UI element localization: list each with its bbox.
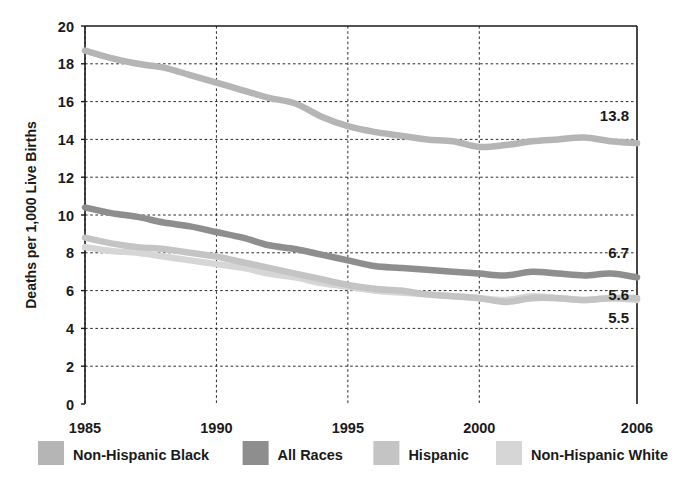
legend-label: All Races bbox=[278, 447, 343, 463]
y-tick-label-0: 0 bbox=[66, 397, 74, 413]
x-tick-label-1995: 1995 bbox=[332, 420, 364, 436]
legend-swatch bbox=[243, 441, 269, 465]
y-tick-label-14: 14 bbox=[58, 132, 74, 148]
y-tick-label-8: 8 bbox=[66, 245, 74, 261]
x-tick-label-1990: 1990 bbox=[200, 420, 232, 436]
x-tick-label-2006: 2006 bbox=[621, 420, 653, 436]
x-tick-label-1985: 1985 bbox=[69, 420, 101, 436]
end-value-label-hispanic: 5.6 bbox=[608, 286, 629, 303]
y-tick-label-18: 18 bbox=[58, 56, 74, 72]
y-axis-title: Deaths per 1,000 Live Births bbox=[23, 121, 39, 309]
y-axis-title-text: Deaths per 1,000 Live Births bbox=[23, 121, 39, 309]
legend-swatch bbox=[38, 441, 64, 465]
x-tick-label-2000: 2000 bbox=[463, 420, 495, 436]
legend-label: Hispanic bbox=[408, 447, 468, 463]
end-value-label-all-races: 6.7 bbox=[608, 244, 629, 261]
end-value-label-non-hispanic-black: 13.8 bbox=[600, 107, 629, 124]
end-value-label-non-hispanic-white: 5.5 bbox=[608, 309, 629, 326]
y-tick-label-10: 10 bbox=[58, 208, 74, 224]
y-tick-label-6: 6 bbox=[66, 283, 74, 299]
y-tick-label-20: 20 bbox=[58, 19, 74, 35]
y-tick-label-12: 12 bbox=[58, 170, 74, 186]
infant-mortality-line-chart: Deaths per 1,000 Live Births 02468101214… bbox=[0, 0, 689, 503]
legend-swatch bbox=[373, 441, 399, 465]
y-tick-label-16: 16 bbox=[58, 94, 74, 110]
legend-swatch bbox=[496, 441, 522, 465]
chart-figure: Deaths per 1,000 Live Births 02468101214… bbox=[0, 0, 689, 503]
y-tick-label-4: 4 bbox=[66, 321, 74, 337]
legend-label: Non-Hispanic Black bbox=[73, 447, 210, 463]
legend-label: Non-Hispanic White bbox=[531, 447, 668, 463]
y-tick-label-2: 2 bbox=[66, 359, 74, 375]
